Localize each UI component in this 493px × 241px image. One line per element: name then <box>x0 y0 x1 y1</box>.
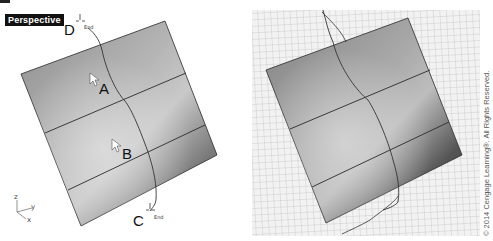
axis-y-label: y <box>31 203 35 211</box>
end-marker-D <box>76 14 85 21</box>
end-label-d: End <box>84 24 94 30</box>
viewport-title[interactable]: Perspective <box>5 14 64 26</box>
viewport-canvas[interactable] <box>0 0 248 241</box>
point-label-d: D <box>64 22 75 37</box>
point-label-a: A <box>99 81 109 96</box>
viewport-canvas[interactable] <box>250 0 493 241</box>
perspective-viewport[interactable]: Perspective D A B C End End z y x <box>0 0 248 241</box>
end-label-c: End <box>154 214 164 220</box>
rendered-viewport[interactable] <box>250 0 493 241</box>
point-label-b: B <box>122 146 132 161</box>
nurbs-surface[interactable] <box>21 21 217 226</box>
copyright-notice: © 2014 Cengage Learning®. All Rights Res… <box>482 71 491 236</box>
axis-x-label: x <box>27 216 31 224</box>
axis-z-label: z <box>14 193 18 201</box>
point-label-c: C <box>133 213 144 228</box>
